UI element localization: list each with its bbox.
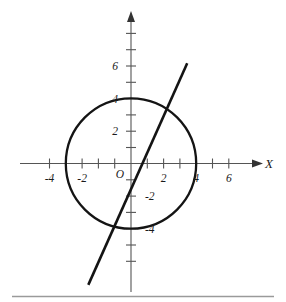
coordinate-graph: -4 -2 2 4 6 6 4 2 -2 -4 O X	[0, 0, 286, 302]
y-axis-arrowhead	[127, 11, 135, 22]
x-tick-label-minus2: -2	[77, 172, 87, 184]
y-tick-label-minus2: -2	[145, 190, 155, 202]
figure-container: -4 -2 2 4 6 6 4 2 -2 -4 O X	[0, 0, 286, 302]
y-tick-label-6: 6	[112, 60, 118, 72]
y-tick-label-minus4: -4	[145, 223, 155, 235]
origin-label: O	[116, 168, 125, 180]
y-tick-label-4: 4	[112, 93, 118, 105]
x-tick-label-6: 6	[226, 172, 232, 184]
x-axis-arrowhead	[252, 160, 263, 168]
x-tick-label-4: 4	[193, 172, 199, 184]
line-curve	[88, 63, 187, 285]
axes-group	[20, 11, 263, 292]
x-axis-label: X	[264, 156, 274, 171]
y-tick-label-2: 2	[112, 125, 118, 137]
x-tick-label-2: 2	[161, 172, 167, 184]
x-tick-label-minus4: -4	[45, 172, 55, 184]
